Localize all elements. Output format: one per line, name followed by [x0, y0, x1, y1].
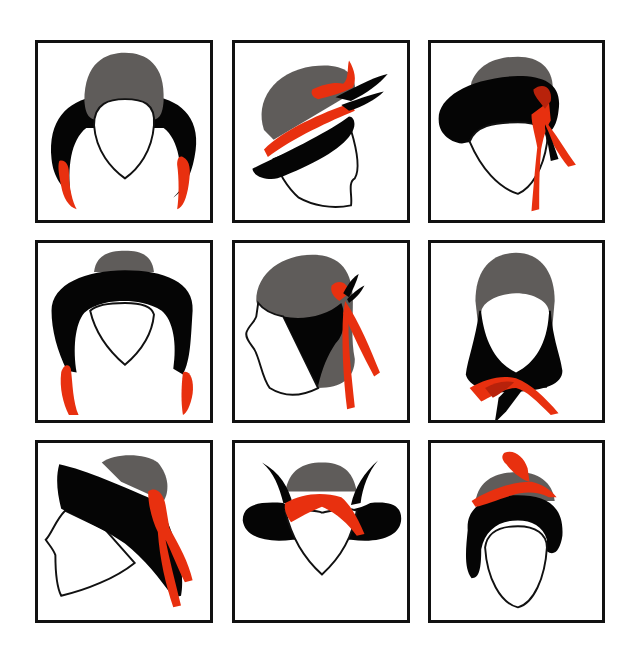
bonnet-illustration-9 — [431, 443, 602, 620]
bonnet-illustration-4 — [38, 243, 210, 420]
bonnet-illustration-2 — [235, 43, 407, 220]
bonnet-panel-5: Side view bonnet with curtain and red bo… — [232, 240, 410, 423]
bonnet-panel-8: Front view wide brim hat with horns and … — [232, 440, 410, 623]
bonnet-illustration-8 — [235, 443, 407, 620]
bonnet-illustration-5 — [235, 243, 407, 420]
bonnet-panel-1: Front view bonnet with side lappets and … — [35, 40, 213, 223]
bonnet-illustration-7 — [38, 443, 210, 620]
bonnet-illustration-1 — [38, 43, 210, 220]
bonnet-panel-9: Front view close bonnet with red bow on … — [428, 440, 605, 623]
bonnet-panel-3: Three-quarter bonnet with wide black bri… — [428, 40, 605, 223]
bonnet-illustration-6 — [431, 243, 602, 420]
bonnet-panel-7: Side view wide angled brim bonnet with r… — [35, 440, 213, 623]
bonnet-panel-4: Front view deep black brim bonnet with r… — [35, 240, 213, 423]
bonnet-panel-6: Front view hood bonnet with red bow unde… — [428, 240, 605, 423]
bonnet-panel-2: Side view hat with black band and red bo… — [232, 40, 410, 223]
bonnet-illustration-3 — [431, 43, 602, 220]
